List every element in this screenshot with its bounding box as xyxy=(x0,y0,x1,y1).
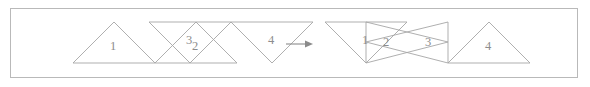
left-triangle-3-label: 3 xyxy=(186,33,192,47)
right-triangle-3 xyxy=(366,22,448,63)
left-triangle-1-label: 1 xyxy=(110,39,116,53)
figure-container: 1 2 3 4 1 2 3 4 xyxy=(0,0,590,87)
left-triangle-2-label: 2 xyxy=(192,39,198,53)
right-triangle-1-label: 1 xyxy=(362,33,368,47)
right-triangle-4-label: 4 xyxy=(485,39,492,53)
right-triangle-2 xyxy=(366,22,448,63)
right-triangle-2-label: 2 xyxy=(383,35,389,49)
triangle-diagram: 1 2 3 4 1 2 3 4 xyxy=(0,0,590,87)
left-triangle-4-label: 4 xyxy=(268,33,275,47)
right-group: 1 2 3 4 xyxy=(325,22,530,63)
arrow-group xyxy=(286,40,313,47)
left-group: 1 2 3 4 xyxy=(73,22,313,63)
right-triangle-3-label: 3 xyxy=(425,35,431,49)
rightwards-arrow-head-icon xyxy=(305,40,313,47)
